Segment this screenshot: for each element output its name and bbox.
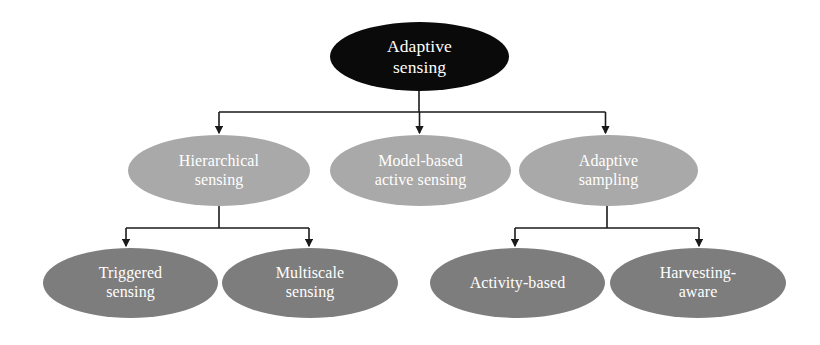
node-activity-based-label: Activity-based (464, 274, 572, 293)
node-adaptive-sensing-label: Adaptive sensing (381, 36, 458, 77)
node-model-based-active-sensing-label: Model-based active sensing (369, 152, 473, 190)
node-multiscale-sensing[interactable]: Multiscale sensing (222, 248, 398, 318)
node-adaptive-sensing[interactable]: Adaptive sensing (330, 22, 509, 91)
node-harvesting-aware-label: Harvesting- aware (654, 264, 743, 302)
node-hierarchical-sensing-label: Hierarchical sensing (173, 152, 265, 190)
node-activity-based[interactable]: Activity-based (430, 248, 605, 318)
node-harvesting-aware[interactable]: Harvesting- aware (610, 248, 786, 318)
node-model-based-active-sensing[interactable]: Model-based active sensing (330, 135, 511, 206)
node-adaptive-sampling[interactable]: Adaptive sampling (519, 135, 698, 206)
node-triggered-sensing[interactable]: Triggered sensing (43, 248, 218, 318)
node-triggered-sensing-label: Triggered sensing (93, 264, 168, 302)
node-multiscale-sensing-label: Multiscale sensing (270, 264, 351, 302)
diagram-canvas: Adaptive sensing Hierarchical sensing Mo… (0, 0, 820, 345)
node-adaptive-sampling-label: Adaptive sampling (573, 152, 644, 190)
node-hierarchical-sensing[interactable]: Hierarchical sensing (128, 135, 310, 206)
